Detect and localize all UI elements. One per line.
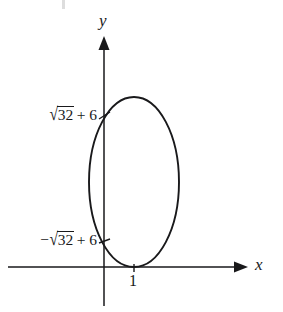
scan-artifact (62, 0, 65, 9)
figure-canvas (0, 0, 283, 312)
y-axis-label: y (99, 12, 107, 29)
upper-label-radical: √32 (50, 106, 74, 123)
y-tick-label-lower: −√32+ 6 (0, 231, 97, 248)
x-tick-label-1: 1 (129, 273, 137, 289)
lower-label-radical: √32 (50, 231, 74, 248)
y-axis-arrowhead (99, 36, 110, 50)
upper-label-rest: + 6 (77, 107, 97, 123)
lower-label-sign: − (40, 232, 49, 248)
ellipse-curve (89, 97, 179, 267)
upper-label-radicand: 32 (57, 106, 74, 123)
x-axis-label: x (255, 256, 263, 273)
x-axis-arrowhead (234, 262, 248, 273)
lower-label-rest: + 6 (77, 232, 97, 248)
y-tick-label-upper: √32+ 6 (0, 106, 97, 123)
lower-label-radicand: 32 (57, 231, 74, 248)
ellipse-figure: y x 1 √32+ 6 −√32+ 6 (0, 0, 283, 312)
